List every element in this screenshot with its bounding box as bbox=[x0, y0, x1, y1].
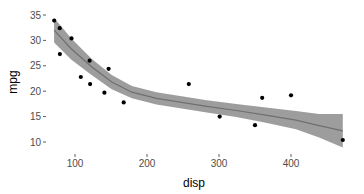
x-tick-label: 100 bbox=[67, 158, 84, 169]
data-point bbox=[187, 82, 191, 86]
x-tick-label: 400 bbox=[283, 158, 300, 169]
y-tick-label: 10 bbox=[30, 137, 42, 148]
data-point bbox=[341, 138, 345, 142]
y-tick-label: 30 bbox=[30, 35, 42, 46]
data-point bbox=[58, 26, 62, 30]
data-point bbox=[88, 82, 92, 86]
scatter-chart: 101520253035 100200300400 disp mpg bbox=[0, 0, 364, 194]
data-point bbox=[79, 75, 83, 79]
data-point bbox=[58, 52, 62, 56]
data-point bbox=[253, 123, 257, 127]
x-tick-label: 200 bbox=[139, 158, 156, 169]
confidence-band-area bbox=[54, 18, 343, 148]
data-point bbox=[107, 67, 111, 71]
data-point bbox=[102, 91, 106, 95]
data-point bbox=[260, 96, 264, 100]
y-tick-label: 15 bbox=[30, 111, 42, 122]
data-point bbox=[69, 36, 73, 40]
data-point bbox=[122, 100, 126, 104]
y-tick-label: 25 bbox=[30, 60, 42, 71]
data-point bbox=[218, 115, 222, 119]
x-axis-title: disp bbox=[183, 176, 205, 190]
data-point bbox=[52, 19, 56, 23]
confidence-band bbox=[54, 18, 343, 148]
data-point bbox=[88, 59, 92, 63]
x-axis: 100200300400 bbox=[67, 154, 300, 169]
y-tick-label: 20 bbox=[30, 86, 42, 97]
y-axis-title: mpg bbox=[6, 70, 20, 93]
data-point bbox=[289, 93, 293, 97]
y-axis: 101520253035 bbox=[30, 10, 46, 148]
x-tick-label: 300 bbox=[211, 158, 228, 169]
y-tick-label: 35 bbox=[30, 10, 42, 21]
